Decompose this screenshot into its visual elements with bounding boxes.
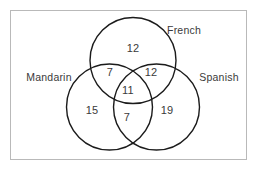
set-label-mandarin: Mandarin xyxy=(26,72,71,83)
region-count-french-spanish: 12 xyxy=(145,67,158,78)
region-count-french-only: 12 xyxy=(127,43,140,54)
region-count-all-three: 11 xyxy=(122,85,134,96)
region-count-mandarin-only: 15 xyxy=(86,105,99,116)
set-label-french: French xyxy=(167,25,201,36)
set-label-spanish: Spanish xyxy=(199,72,238,83)
venn-diagram-canvas: Mandarin French Spanish 12 15 19 7 12 7 … xyxy=(0,0,257,171)
region-count-mandarin-spanish: 7 xyxy=(124,112,130,123)
region-count-spanish-only: 19 xyxy=(161,105,174,116)
region-count-mandarin-french: 7 xyxy=(107,67,113,78)
